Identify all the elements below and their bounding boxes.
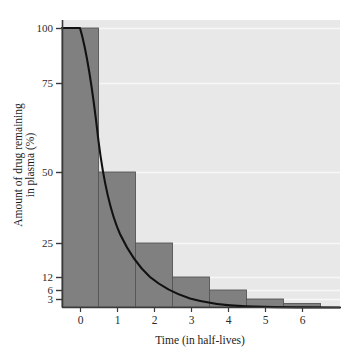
y-tick-label-100: 100 — [37, 22, 54, 34]
x-tick-label-1: 1 — [115, 314, 121, 326]
bar-1 — [99, 172, 136, 307]
bar-0 — [62, 28, 99, 307]
bar-2 — [136, 243, 173, 307]
y-tick-label-25: 25 — [42, 237, 54, 249]
y-tick-label-12: 12 — [42, 271, 53, 283]
x-tick-label-4: 4 — [226, 314, 232, 326]
x-tick-label-5: 5 — [263, 314, 269, 326]
chart-svg: 100 75 50 25 12 6 3 0 1 2 3 4 5 6 — [0, 0, 345, 354]
drug-half-life-chart: 100 75 50 25 12 6 3 0 1 2 3 4 5 6 — [0, 0, 345, 354]
x-tick-label-2: 2 — [152, 314, 158, 326]
y-tick-label-75: 75 — [42, 77, 54, 89]
y-axis-title-line2: in plasma (%) — [24, 133, 37, 198]
y-tick-label-3: 3 — [48, 293, 54, 305]
x-tick-label-0: 0 — [78, 314, 84, 326]
x-axis-title: Time (in half-lives) — [155, 334, 245, 347]
y-tick-label-50: 50 — [42, 166, 54, 178]
x-tick-label-6: 6 — [300, 314, 306, 326]
x-tick-label-3: 3 — [189, 314, 195, 326]
